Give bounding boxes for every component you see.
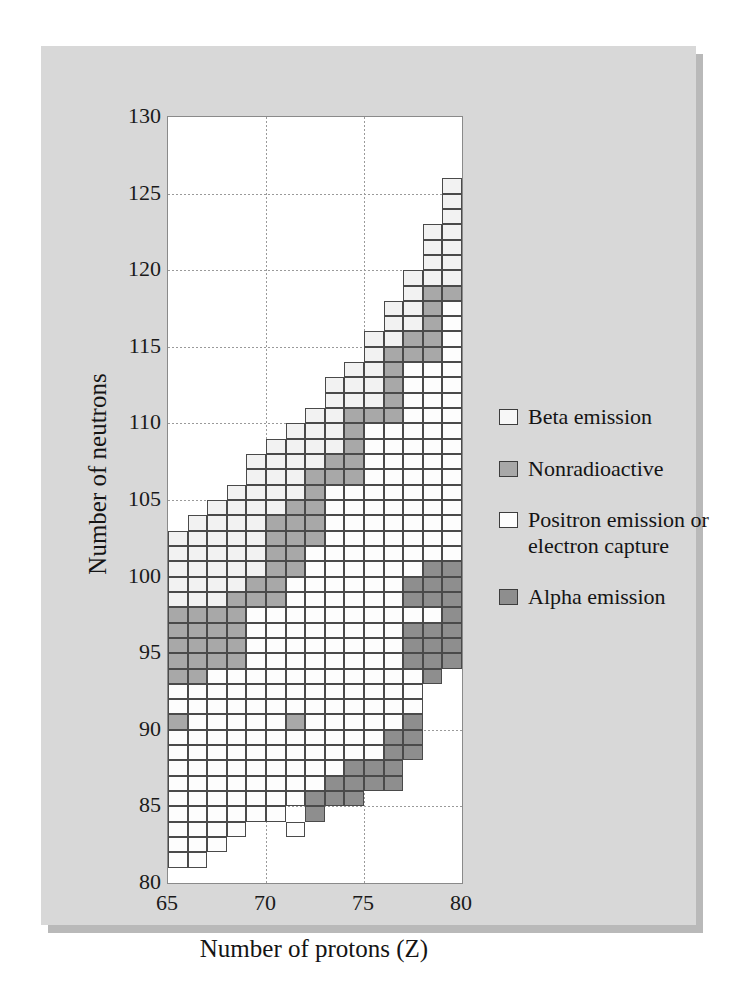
nuclide-cell: [403, 270, 423, 285]
nuclide-cell: [188, 546, 208, 561]
nuclide-cell: [286, 515, 306, 530]
nuclide-cell: [384, 714, 404, 729]
nuclide-cell: [286, 791, 306, 806]
nuclide-cell: [286, 653, 306, 668]
nuclide-cell: [266, 500, 286, 515]
nuclide-cell: [305, 669, 325, 684]
nuclide-cell: [227, 806, 247, 821]
nuclide-cell: [305, 699, 325, 714]
nuclide-cell: [246, 546, 266, 561]
nuclide-cell: [403, 347, 423, 362]
x-tick-label: 65: [137, 892, 197, 914]
nuclide-cell: [246, 699, 266, 714]
nuclide-cell: [188, 776, 208, 791]
nuclide-cell: [364, 561, 384, 576]
nuclide-cell: [207, 577, 227, 592]
nuclide-cell: [266, 592, 286, 607]
nuclide-cell: [207, 684, 227, 699]
nuclide-cell: [442, 485, 462, 500]
nuclide-cell: [423, 331, 443, 346]
nuclide-cell: [266, 745, 286, 760]
nuclide-cell: [188, 852, 208, 867]
nuclide-cell: [188, 638, 208, 653]
nuclide-cell: [246, 500, 266, 515]
nuclide-cell: [325, 515, 345, 530]
nuclide-cell: [442, 546, 462, 561]
nuclide-cell: [266, 699, 286, 714]
nuclide-cell: [168, 623, 188, 638]
nuclide-cell: [266, 730, 286, 745]
nuclide-cell: [364, 577, 384, 592]
nuclide-cell: [344, 730, 364, 745]
nuclide-cell: [305, 546, 325, 561]
nuclide-cell: [403, 408, 423, 423]
nuclide-cell: [364, 331, 384, 346]
nuclide-cell: [384, 730, 404, 745]
nuclide-cell: [286, 623, 306, 638]
nuclide-cell: [344, 485, 364, 500]
y-tick-label: 80: [115, 871, 161, 893]
nuclide-cell: [442, 469, 462, 484]
nuclide-cell: [246, 638, 266, 653]
nuclide-cell: [188, 760, 208, 775]
nuclide-cell: [403, 577, 423, 592]
nuclide-cell: [344, 699, 364, 714]
nuclide-cell: [403, 607, 423, 622]
nuclide-cell: [403, 439, 423, 454]
nuclide-cell: [442, 423, 462, 438]
nuclide-cell: [442, 270, 462, 285]
nuclide-cell: [442, 301, 462, 316]
y-tick-label: 95: [115, 641, 161, 663]
nuclide-cell: [207, 822, 227, 837]
nuclide-cell: [364, 684, 384, 699]
nuclide-cell: [403, 301, 423, 316]
nuclide-cell: [442, 240, 462, 255]
nuclide-cell: [384, 454, 404, 469]
nuclide-cell: [207, 699, 227, 714]
nuclide-cell: [403, 592, 423, 607]
nuclide-cell: [286, 469, 306, 484]
nuclide-cell: [344, 408, 364, 423]
nuclide-cell: [384, 776, 404, 791]
nuclide-cell: [344, 469, 364, 484]
nuclide-cell: [207, 653, 227, 668]
nuclide-cell: [403, 531, 423, 546]
nuclide-cell: [384, 316, 404, 331]
nuclide-cell: [227, 561, 247, 576]
legend-item: Positron emission or electron capture: [499, 507, 724, 558]
legend-item: Nonradioactive: [499, 456, 724, 482]
y-axis-tick-labels: 80859095100105110115120125130: [107, 116, 161, 882]
nuclide-cell: [364, 714, 384, 729]
y-tick-label: 105: [115, 488, 161, 510]
nuclide-cell: [227, 760, 247, 775]
nuclide-cell: [266, 454, 286, 469]
y-tick-label: 110: [115, 411, 161, 433]
nuclide-cell: [168, 607, 188, 622]
nuclide-cell: [246, 592, 266, 607]
nuclide-cell: [403, 515, 423, 530]
nuclide-cell: [266, 638, 286, 653]
nuclide-cell: [168, 684, 188, 699]
x-tick-label: 80: [431, 892, 491, 914]
nuclide-cell: [403, 699, 423, 714]
nuclide-cell: [442, 607, 462, 622]
nuclide-cell: [168, 638, 188, 653]
nuclide-cell: [246, 745, 266, 760]
nuclide-cell: [403, 454, 423, 469]
nuclide-cell: [207, 791, 227, 806]
nuclide-cell: [286, 546, 306, 561]
nuclide-cell: [305, 439, 325, 454]
nuclide-cell: [168, 745, 188, 760]
nuclide-cell: [227, 531, 247, 546]
nuclide-cell: [423, 270, 443, 285]
nuclide-cell: [384, 408, 404, 423]
nuclide-cell: [344, 362, 364, 377]
nuclide-cell: [286, 500, 306, 515]
nuclide-cell: [168, 653, 188, 668]
nuclide-chart-plot-area: [167, 116, 463, 884]
nuclide-cell: [423, 408, 443, 423]
legend-item: Alpha emission: [499, 584, 724, 610]
nuclide-cell: [266, 623, 286, 638]
nuclide-cell: [286, 714, 306, 729]
nuclide-cell: [344, 515, 364, 530]
